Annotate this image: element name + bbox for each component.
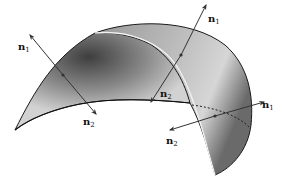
point-left xyxy=(61,73,64,76)
arrow-n1-left xyxy=(30,35,63,75)
surface-normals-diagram: n1 n2 n1 n2 n1 n2 xyxy=(0,0,282,187)
label-n2-middle: n2 xyxy=(160,89,172,101)
label-n1-middle: n1 xyxy=(208,14,220,26)
surface-figure xyxy=(0,0,282,187)
label-n1-right: n1 xyxy=(262,100,274,112)
point-middle xyxy=(179,53,182,56)
label-n2-right: n2 xyxy=(166,136,178,148)
label-n2-left: n2 xyxy=(83,117,95,129)
point-right xyxy=(213,114,216,117)
label-n1-left: n1 xyxy=(18,42,30,54)
